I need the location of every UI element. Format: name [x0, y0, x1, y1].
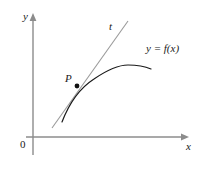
tangent-line-label: t [109, 21, 112, 32]
tangent-line [52, 21, 128, 128]
function-curve [62, 65, 151, 122]
figure-canvas [0, 0, 204, 169]
tangency-point-marker [75, 84, 80, 89]
point-p-label: P [65, 73, 72, 84]
y-axis-label: y [23, 11, 28, 22]
origin-label: 0 [20, 139, 26, 150]
function-curve-label: y = f(x) [146, 43, 179, 54]
y-axis-arrowhead [30, 13, 37, 21]
x-axis-label: x [186, 141, 191, 152]
tangent-line-figure: y x 0 t P y = f(x) [0, 0, 204, 169]
